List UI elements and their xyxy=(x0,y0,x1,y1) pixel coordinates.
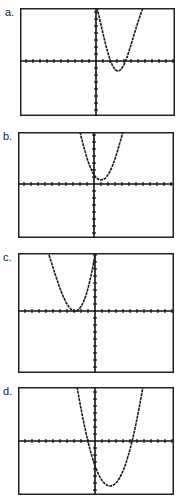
parabola-curve xyxy=(49,255,95,311)
graph-b xyxy=(18,132,174,238)
graph-c xyxy=(18,253,174,373)
graph-d xyxy=(18,387,174,495)
panel-label-b: b. xyxy=(3,130,12,142)
graph-frame xyxy=(21,9,175,116)
graph-frame xyxy=(19,254,174,373)
panel-label-a: a. xyxy=(5,6,14,18)
panel-label-d: d. xyxy=(3,385,12,397)
panel-label-c: c. xyxy=(3,251,12,263)
parabola-curve xyxy=(77,387,143,486)
graph-a xyxy=(20,8,175,116)
parabola-curve xyxy=(80,132,123,180)
